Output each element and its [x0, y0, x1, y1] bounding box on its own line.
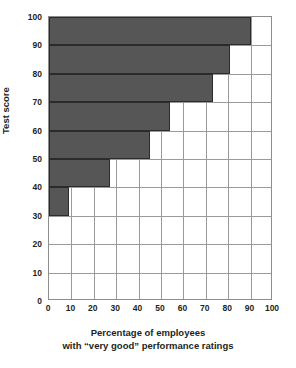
- bar-30-40: [49, 187, 69, 215]
- y-tick-label-50: 50: [2, 154, 42, 164]
- bar-chart: Test score 100 90 80 70 60 50 40 30 20 1…: [0, 0, 296, 368]
- y-tick-label-10: 10: [2, 268, 42, 278]
- gridline-y-20: [49, 244, 271, 245]
- y-tick-label-70: 70: [2, 97, 42, 107]
- gridline-x-90: [251, 17, 252, 299]
- y-tick-label-30: 30: [2, 211, 42, 221]
- bar-60-70: [49, 102, 170, 130]
- bar-90-100: [49, 17, 251, 45]
- x-tick-label-100: 100: [257, 303, 287, 313]
- y-tick-label-20: 20: [2, 239, 42, 249]
- bar-50-60: [49, 131, 150, 159]
- bar-40-50: [49, 159, 110, 187]
- y-tick-label-90: 90: [2, 40, 42, 50]
- x-axis-title-line1: Percentage of employees: [8, 326, 288, 339]
- x-axis-title: Percentage of employees with “very good”…: [8, 326, 288, 352]
- y-tick-label-80: 80: [2, 69, 42, 79]
- y-tick-label-40: 40: [2, 182, 42, 192]
- y-tick-label-60: 60: [2, 126, 42, 136]
- plot-area: [48, 16, 272, 300]
- bar-70-80: [49, 74, 213, 102]
- y-tick-label-100: 100: [2, 12, 42, 22]
- gridline-y-40: [49, 187, 271, 188]
- gridline-y-10: [49, 273, 271, 274]
- bar-80-90: [49, 45, 230, 73]
- x-axis-title-line2: with “very good” performance ratings: [8, 339, 288, 352]
- gridline-y-30: [49, 216, 271, 217]
